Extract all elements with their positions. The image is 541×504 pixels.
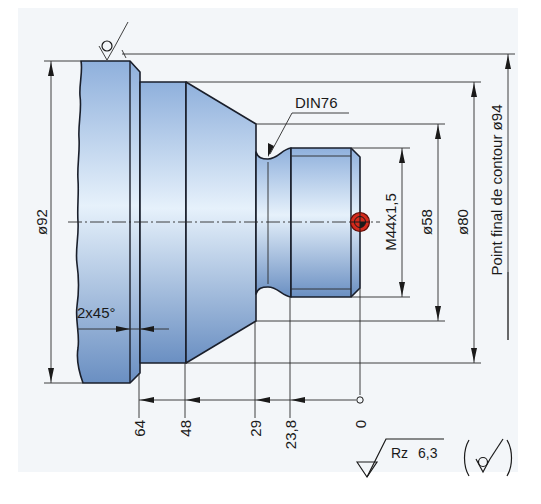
- x-dim-29: 29: [247, 420, 264, 437]
- roughness-value: 6,3: [418, 445, 438, 461]
- x-dim-0: 0: [352, 420, 369, 428]
- thread-undercut: [256, 148, 291, 297]
- chamfer-label: 2x45°: [77, 304, 116, 321]
- x-dim-48: 48: [177, 420, 194, 437]
- dia-80-label: ø80: [454, 209, 471, 235]
- technical-drawing: ø92 M44x1,5 ø58 ø80 Point final de conto…: [0, 0, 541, 504]
- cone-section: [186, 82, 256, 363]
- workpiece-zero-point-marker: [351, 213, 370, 232]
- contour-end-label: Point final de contour ø94: [488, 105, 505, 276]
- dia-58-label: ø58: [418, 209, 435, 235]
- x-dim-23-8: 23,8: [282, 420, 299, 449]
- din76-label: DIN76: [295, 94, 338, 111]
- step-dia-80: [140, 82, 186, 363]
- dia-92-label: ø92: [33, 209, 50, 235]
- x-dim-64: 64: [131, 420, 148, 437]
- thread-pin: [291, 148, 360, 297]
- thread-label: M44x1,5: [382, 193, 399, 251]
- roughness-param: Rz: [391, 445, 408, 461]
